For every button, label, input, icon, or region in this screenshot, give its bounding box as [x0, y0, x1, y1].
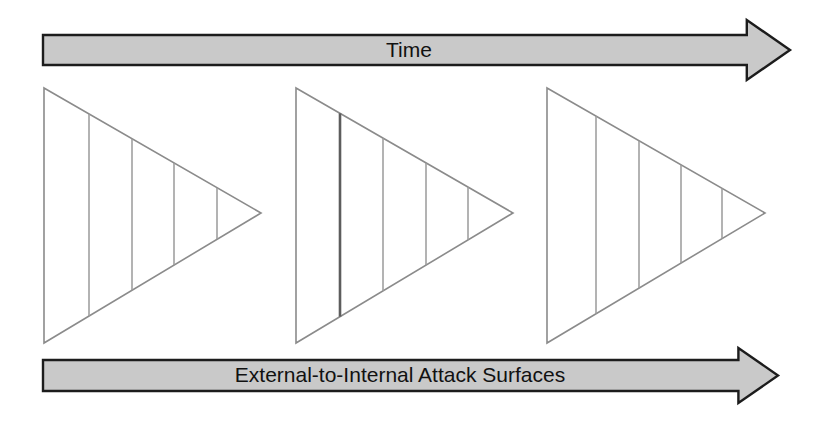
attack-surface-triangle-1 — [44, 88, 261, 343]
attack-surface-triangle-2 — [296, 88, 513, 343]
diagram-canvas: Time External-to-Internal Attack Surface… — [0, 0, 818, 421]
triangle-3-outline — [547, 88, 765, 343]
attack-surfaces-arrow: External-to-Internal Attack Surfaces — [43, 348, 778, 403]
time-arrow-label: Time — [386, 38, 432, 61]
triangle-2-outline — [296, 88, 513, 343]
triangle-1-outline — [44, 88, 261, 343]
diagram-svg: Time External-to-Internal Attack Surface… — [0, 0, 818, 421]
attack-surface-triangle-3 — [547, 88, 765, 343]
attack-surfaces-arrow-label: External-to-Internal Attack Surfaces — [235, 363, 565, 386]
time-arrow: Time — [43, 20, 790, 80]
